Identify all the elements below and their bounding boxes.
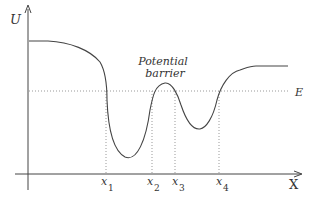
svg-text:x: x [172,175,179,188]
svg-text:4: 4 [223,183,229,193]
turning-point-label-1: x 1 [101,175,114,193]
y-axis [25,5,31,190]
annotation-line2: barrier [145,67,185,80]
svg-text:1: 1 [108,183,114,193]
turning-point-guides [106,91,219,174]
svg-text:3: 3 [179,183,185,193]
x-axis [15,171,302,177]
x-axis-label: X [289,177,299,192]
turning-point-label-4: x 4 [216,175,229,193]
svg-text:x: x [101,175,108,188]
potential-barrier-diagram: U X E Potential barrier x 1 x 2 x 3 x 4 [0,0,310,201]
svg-text:x: x [216,175,223,188]
y-axis-label: U [10,12,22,27]
turning-point-label-3: x 3 [172,175,185,193]
energy-level-label: E [294,86,303,99]
svg-text:x: x [147,175,154,188]
turning-point-label-2: x 2 [147,175,160,193]
svg-text:2: 2 [154,183,160,193]
